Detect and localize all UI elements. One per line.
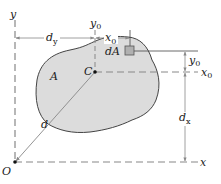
x0-axis-label: x0 <box>201 66 212 80</box>
centroid-label: C <box>84 65 93 78</box>
y0-axis-label: y0 <box>89 17 101 31</box>
area-element <box>125 46 134 55</box>
parallel-axis-diagram: y x O C A dA d dy x0 y0 x0 y0 dx <box>0 0 221 184</box>
y0-dimension-label: y0 <box>188 54 200 68</box>
y-axis-label: y <box>9 8 17 21</box>
element-label: dA <box>105 45 120 58</box>
origin-point <box>13 160 17 164</box>
centroid-point <box>93 70 97 74</box>
distance-d-label: d <box>41 118 48 131</box>
origin-label: O <box>2 165 11 178</box>
area-label: A <box>49 70 58 83</box>
x-axis-label: x <box>200 156 207 169</box>
